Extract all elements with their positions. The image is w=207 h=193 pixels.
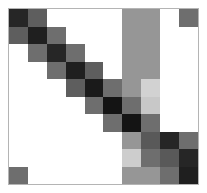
heatmap-cell [141, 167, 160, 185]
heatmap-cell [28, 149, 47, 167]
heatmap-cell [122, 27, 141, 45]
heatmap-cell [141, 27, 160, 45]
heatmap-cell [160, 167, 179, 185]
heatmap-cell [85, 132, 104, 150]
heatmap-cell [160, 132, 179, 150]
heatmap-cell [122, 44, 141, 62]
heatmap-cell [141, 132, 160, 150]
heatmap-cell [103, 27, 122, 45]
heatmap-cell [103, 44, 122, 62]
heatmap-cell [28, 97, 47, 115]
heatmap-cell [85, 62, 104, 80]
heatmap-cell [141, 9, 160, 27]
heatmap-cell [122, 114, 141, 132]
heatmap-cell [141, 44, 160, 62]
heatmap-grid [9, 9, 198, 184]
heatmap-cell [179, 97, 198, 115]
heatmap-cell [47, 27, 66, 45]
heatmap-cell [9, 44, 28, 62]
heatmap-cell [47, 44, 66, 62]
heatmap-cell [141, 62, 160, 80]
heatmap-cell [47, 167, 66, 185]
heatmap-cell [85, 27, 104, 45]
heatmap-figure [0, 0, 207, 193]
heatmap-cell [28, 44, 47, 62]
heatmap-cell [47, 62, 66, 80]
heatmap-cell [66, 149, 85, 167]
heatmap-cell [103, 167, 122, 185]
heatmap-cell [66, 167, 85, 185]
heatmap-cell [122, 62, 141, 80]
heatmap-cell [160, 114, 179, 132]
heatmap-cell [122, 9, 141, 27]
heatmap-cell [160, 97, 179, 115]
heatmap-cell [103, 114, 122, 132]
heatmap-cell [103, 149, 122, 167]
heatmap-cell [160, 44, 179, 62]
heatmap-cell [160, 9, 179, 27]
heatmap-cell [9, 149, 28, 167]
heatmap-cell [122, 97, 141, 115]
heatmap-cell [141, 114, 160, 132]
heatmap-cell [66, 79, 85, 97]
heatmap-cell [28, 79, 47, 97]
heatmap-cell [160, 27, 179, 45]
heatmap-cell [66, 27, 85, 45]
heatmap-cell [179, 149, 198, 167]
heatmap-cell [9, 62, 28, 80]
heatmap-cell [85, 167, 104, 185]
heatmap-cell [28, 132, 47, 150]
heatmap-cell [103, 62, 122, 80]
heatmap-cell [85, 97, 104, 115]
heatmap-cell [9, 132, 28, 150]
heatmap-cell [66, 97, 85, 115]
heatmap-cell [47, 79, 66, 97]
heatmap-cell [9, 114, 28, 132]
heatmap-cell [85, 149, 104, 167]
heatmap-cell [66, 44, 85, 62]
heatmap-cell [160, 149, 179, 167]
heatmap-cell [179, 44, 198, 62]
heatmap-cell [47, 114, 66, 132]
heatmap-cell [179, 27, 198, 45]
heatmap-cell [85, 114, 104, 132]
heatmap-cell [103, 79, 122, 97]
heatmap-cell [141, 79, 160, 97]
heatmap-cell [103, 132, 122, 150]
heatmap-cell [122, 149, 141, 167]
heatmap-cell [47, 97, 66, 115]
heatmap-cell [179, 9, 198, 27]
heatmap-cell [47, 9, 66, 27]
plot-area [8, 8, 199, 185]
heatmap-cell [9, 27, 28, 45]
heatmap-cell [141, 149, 160, 167]
heatmap-cell [47, 132, 66, 150]
heatmap-cell [85, 9, 104, 27]
heatmap-cell [122, 79, 141, 97]
heatmap-cell [66, 62, 85, 80]
heatmap-cell [47, 149, 66, 167]
heatmap-cell [28, 9, 47, 27]
heatmap-cell [9, 167, 28, 185]
heatmap-cell [9, 9, 28, 27]
heatmap-cell [66, 114, 85, 132]
heatmap-cell [28, 167, 47, 185]
heatmap-cell [85, 44, 104, 62]
heatmap-cell [28, 114, 47, 132]
heatmap-cell [179, 62, 198, 80]
heatmap-cell [85, 79, 104, 97]
heatmap-cell [9, 97, 28, 115]
heatmap-cell [179, 167, 198, 185]
heatmap-cell [103, 97, 122, 115]
heatmap-cell [122, 167, 141, 185]
heatmap-cell [28, 62, 47, 80]
heatmap-cell [66, 132, 85, 150]
heatmap-cell [141, 97, 160, 115]
heatmap-cell [103, 9, 122, 27]
heatmap-cell [160, 79, 179, 97]
heatmap-cell [179, 114, 198, 132]
heatmap-cell [160, 62, 179, 80]
heatmap-cell [66, 9, 85, 27]
heatmap-cell [179, 79, 198, 97]
heatmap-cell [28, 27, 47, 45]
